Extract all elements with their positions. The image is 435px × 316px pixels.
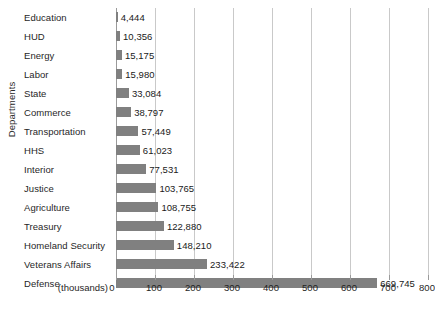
bar [116, 126, 138, 136]
category-label: Agriculture [24, 198, 70, 217]
bar-row: 15,175 [116, 46, 428, 65]
bar-value-label: 108,755 [158, 198, 196, 217]
bar [116, 259, 207, 269]
bar-value-label: 122,880 [164, 217, 202, 236]
x-axis-units-label: (thousands) [58, 280, 108, 296]
bar-value-label: 33,084 [129, 84, 161, 103]
category-label-column: EducationHUDEnergyLaborStateCommerceTran… [0, 8, 112, 280]
plot-area: 4,44410,35615,17515,98033,08438,79757,44… [116, 8, 428, 280]
category-label: Justice [24, 179, 54, 198]
bar [116, 164, 146, 174]
bar-row: 77,531 [116, 160, 428, 179]
category-label: Homeland Security [24, 236, 105, 255]
category-label: Labor [24, 65, 49, 84]
x-axis: (thousands) 0100200300400500600700800 [0, 280, 432, 302]
bar-row: 57,449 [116, 122, 428, 141]
bar-value-label: 15,980 [122, 65, 154, 84]
x-tick-label: 0 [109, 280, 114, 296]
category-label: Energy [24, 46, 54, 65]
bar-row: 61,023 [116, 141, 428, 160]
bar-value-label: 4,444 [118, 8, 145, 27]
bar [116, 145, 140, 155]
bar-row: 33,084 [116, 84, 428, 103]
x-tick-label: 200 [185, 280, 201, 296]
x-tick-label: 100 [146, 280, 162, 296]
category-label: HHS [24, 141, 44, 160]
x-tick-label: 700 [380, 280, 396, 296]
bar [116, 202, 158, 212]
x-tick-label: 500 [302, 280, 318, 296]
bar-value-label: 10,356 [120, 27, 152, 46]
x-tick-label: 400 [263, 280, 279, 296]
bar [116, 240, 174, 250]
bar-row: 233,422 [116, 255, 428, 274]
bar-row: 4,444 [116, 8, 428, 27]
bar-value-label: 103,765 [156, 179, 194, 198]
x-tick-label: 600 [341, 280, 357, 296]
bar-value-label: 233,422 [207, 255, 245, 274]
bar-row: 108,755 [116, 198, 428, 217]
bar-value-label: 77,531 [146, 160, 178, 179]
category-label: Transportation [24, 122, 86, 141]
category-label: Veterans Affairs [24, 255, 91, 274]
bar-value-label: 148,210 [174, 236, 212, 255]
bar-row: 103,765 [116, 179, 428, 198]
bar [116, 107, 131, 117]
category-label: State [24, 84, 46, 103]
bar-row: 148,210 [116, 236, 428, 255]
x-tick-label: 800 [419, 280, 435, 296]
bar-value-label: 38,797 [131, 103, 163, 122]
category-label: Interior [24, 160, 54, 179]
gridline-800 [428, 8, 429, 280]
category-label: Treasury [24, 217, 62, 236]
bar [116, 88, 129, 98]
bar [116, 221, 164, 231]
bar [116, 183, 156, 193]
bar-row: 122,880 [116, 217, 428, 236]
category-label: HUD [24, 27, 45, 46]
category-label: Commerce [24, 103, 71, 122]
x-tick-label: 300 [224, 280, 240, 296]
tick-mark-0 [116, 275, 117, 280]
bar-row: 15,980 [116, 65, 428, 84]
bar-value-label: 61,023 [140, 141, 172, 160]
bar-row: 10,356 [116, 27, 428, 46]
bar-row: 38,797 [116, 103, 428, 122]
category-label: Education [24, 8, 67, 27]
bar-value-label: 57,449 [138, 122, 170, 141]
bar-value-label: 15,175 [122, 46, 154, 65]
